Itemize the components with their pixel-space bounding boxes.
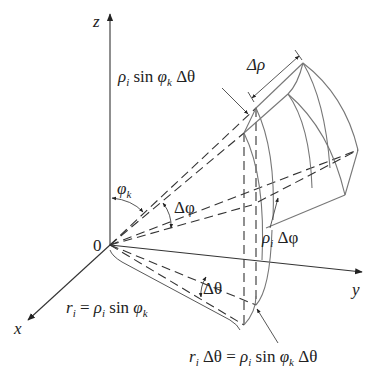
- wedge: [244, 63, 358, 305]
- delta-rho-label: Δρ: [246, 55, 265, 74]
- top-arc-pointer: [222, 88, 248, 114]
- phi-k-label: φk: [117, 179, 132, 200]
- top-arc-label: ρi sin φk Δθ: [117, 67, 195, 88]
- z-axis-label: z: [92, 12, 100, 31]
- y-axis-label: y: [350, 280, 360, 299]
- delta-theta-label: Δθ: [203, 279, 222, 298]
- r-equation-label: ri = ρi sin φk: [66, 298, 149, 319]
- rho-delta-phi-label: ρi Δφ: [261, 228, 298, 249]
- dashed-rays: [110, 108, 358, 325]
- axes: [28, 14, 362, 320]
- arc-equation-label: ri Δθ = ρi sin φk Δθ: [189, 347, 317, 368]
- origin-label: 0: [93, 236, 102, 255]
- arc-eq-pointer: [257, 309, 278, 343]
- phi-k-arc: [112, 198, 143, 212]
- spherical-wedge-diagram: z x y 0: [0, 0, 371, 380]
- x-axis-label: x: [13, 319, 22, 338]
- delta-phi-label: Δφ: [174, 198, 195, 217]
